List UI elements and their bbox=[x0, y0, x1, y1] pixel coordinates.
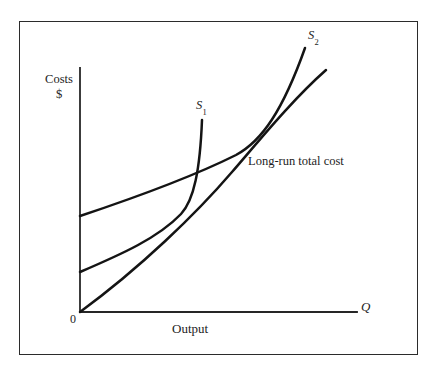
curve-label-s2-subscript: 2 bbox=[315, 37, 319, 47]
figure-root: Costs $ Output 0 Q S1 S2 Long-run total … bbox=[0, 0, 434, 375]
y-axis-label: Costs $ bbox=[37, 72, 81, 101]
curve-label-s2-letter: S bbox=[308, 28, 314, 42]
y-axis-label-costs: Costs bbox=[37, 72, 81, 86]
x-axis-label: Output bbox=[172, 322, 208, 337]
curve-label-s1: S1 bbox=[196, 98, 207, 115]
curve-label-s2: S2 bbox=[308, 28, 319, 45]
curve-label-s1-subscript: 1 bbox=[203, 107, 207, 117]
origin-label: 0 bbox=[70, 313, 76, 326]
curve-label-long-run-total-cost: Long-run total cost bbox=[248, 154, 344, 168]
x-axis-quantity-symbol: Q bbox=[361, 300, 370, 315]
curve-label-s1-letter: S bbox=[196, 98, 202, 112]
y-axis-label-currency: $ bbox=[37, 87, 81, 101]
